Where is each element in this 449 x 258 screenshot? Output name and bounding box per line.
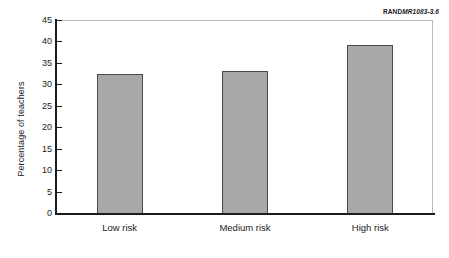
y-axis-tick-label-wrap: 20 — [22, 127, 52, 128]
source-credit: RANDMR1083-3.6 — [383, 7, 439, 16]
y-axis-tick-mark — [57, 41, 62, 42]
figure: RANDMR1083-3.6 Percentage of teachers 05… — [0, 0, 449, 258]
y-axis-tick-mark — [57, 170, 62, 171]
y-axis-tick-mark — [57, 149, 62, 150]
y-axis-tick-label: 0 — [24, 209, 52, 218]
y-axis-tick-label: 5 — [24, 187, 52, 196]
y-axis-tick-label-wrap: 25 — [22, 106, 52, 107]
x-axis-line — [55, 213, 435, 215]
y-axis-tick-mark — [57, 63, 62, 64]
rand-brand-label: RAND — [383, 8, 402, 15]
rand-figure-id: MR1083-3.6 — [402, 8, 439, 15]
y-axis-tick-label-wrap: 35 — [22, 63, 52, 64]
y-axis-tick-mark — [57, 106, 62, 107]
y-axis-tick-label-wrap: 0 — [22, 213, 52, 214]
y-axis-tick-label-wrap: 10 — [22, 170, 52, 171]
bar — [222, 71, 268, 213]
y-axis-tick-label: 10 — [24, 166, 52, 175]
y-axis-tick-mark — [57, 127, 62, 128]
bar — [347, 45, 393, 213]
y-axis-tick-mark — [57, 84, 62, 85]
y-axis-tick-label: 20 — [24, 123, 52, 132]
bar — [97, 74, 143, 213]
x-axis-category-label: Medium risk — [219, 222, 270, 233]
y-axis-tick-label-wrap: 5 — [22, 192, 52, 193]
y-axis-tick-label: 45 — [24, 16, 52, 25]
y-axis-tick-label: 30 — [24, 80, 52, 89]
y-axis-tick-label-wrap: 30 — [22, 84, 52, 85]
y-axis-tick-label: 15 — [24, 144, 52, 153]
x-axis-category-label: High risk — [352, 222, 389, 233]
y-axis-tick-mark — [57, 192, 62, 193]
x-axis-category-label: Low risk — [102, 222, 137, 233]
y-axis-tick-label: 35 — [24, 58, 52, 67]
y-axis-tick-label-wrap: 15 — [22, 149, 52, 150]
y-axis-tick-mark — [57, 20, 62, 21]
y-axis-tick-mark — [57, 213, 62, 214]
y-axis-tick-label: 40 — [24, 37, 52, 46]
y-axis-tick-label-wrap: 45 — [22, 20, 52, 21]
y-axis-tick-label-wrap: 40 — [22, 41, 52, 42]
y-axis-line — [55, 19, 57, 215]
y-axis-tick-label: 25 — [24, 101, 52, 110]
